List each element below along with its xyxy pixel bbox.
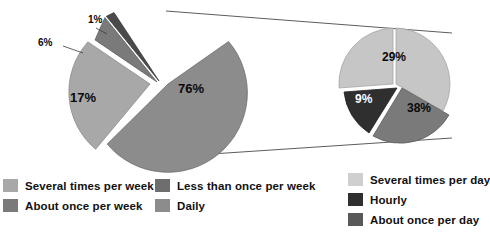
legend-item[interactable]: Daily xyxy=(155,196,315,215)
legend-swatch-icon xyxy=(348,213,363,226)
legend-swatch-icon xyxy=(3,179,18,192)
legend-left-column: Several times per week About once per we… xyxy=(3,176,154,216)
legend-item-label: About once per week xyxy=(25,200,143,212)
breakout-pie: 29% 38% 9% xyxy=(339,28,450,143)
legend-item[interactable]: Several times per week xyxy=(3,176,154,195)
label-less-than-once-per-week: 1% xyxy=(88,14,103,25)
small-slice-callouts: 6% 1% xyxy=(38,14,107,53)
legend-item-label: Several times per day xyxy=(370,174,490,186)
label-about-once-per-week: 6% xyxy=(38,37,53,48)
label-hourly: 9% xyxy=(355,92,373,106)
legend-middle-column: Less than once per week Daily xyxy=(155,176,315,216)
legend-item[interactable]: Less than once per week xyxy=(155,176,315,195)
legend-item-label: About once per day xyxy=(370,214,479,226)
legend-right-column: Several times per day Hourly About once … xyxy=(348,170,490,230)
label-several-times-per-day: 29% xyxy=(382,50,406,64)
legend-item[interactable]: About once per day xyxy=(348,210,490,229)
label-daily: 76% xyxy=(178,81,204,96)
primary-pie: 76% 17% xyxy=(69,13,247,173)
legend-swatch-icon xyxy=(155,179,170,192)
legend-item[interactable]: About once per week xyxy=(3,196,154,215)
label-about-once-per-day: 38% xyxy=(407,101,431,115)
legend-item[interactable]: Hourly xyxy=(348,190,490,209)
legend-swatch-icon xyxy=(348,173,363,186)
legend-swatch-icon xyxy=(3,199,18,212)
legend-item-label: Several times per week xyxy=(25,180,154,192)
legend-item[interactable]: Several times per day xyxy=(348,170,490,189)
legend-swatch-icon xyxy=(348,193,363,206)
legend-swatch-icon xyxy=(155,199,170,212)
label-several-times-per-week: 17% xyxy=(70,90,96,105)
legend-item-label: Hourly xyxy=(370,194,407,206)
legend-item-label: Less than once per week xyxy=(177,180,315,192)
legend-item-label: Daily xyxy=(177,200,205,212)
